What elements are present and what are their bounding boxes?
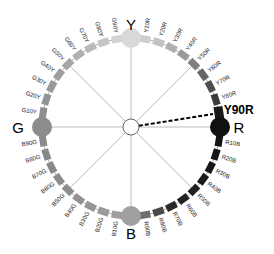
swatch-g20y	[41, 93, 51, 106]
swatch-label: Y90R	[224, 103, 254, 117]
swatch-label: G10Y	[21, 107, 37, 115]
swatch-label: B20G	[94, 216, 105, 233]
primary-label-y: Y	[126, 16, 136, 33]
swatch-chip	[97, 37, 110, 47]
swatch-chip	[211, 93, 221, 106]
primary-label-b: B	[126, 225, 136, 242]
swatch-label: B60G	[40, 180, 56, 194]
swatch-g70y	[84, 42, 97, 53]
primary-label-g: G	[12, 119, 24, 136]
swatch-label: G80Y	[94, 21, 104, 37]
swatch-label: G20Y	[25, 90, 41, 100]
swatch-label: B50G	[51, 192, 66, 207]
swatch-chip	[72, 193, 85, 205]
primary-circle-b	[121, 206, 141, 226]
swatch-label: G90Y	[111, 17, 119, 33]
swatch-g30y	[46, 80, 57, 93]
swatch-chip	[41, 93, 51, 106]
swatch-label: B70G	[31, 167, 48, 179]
spoke-line	[137, 133, 194, 190]
swatch-chip	[53, 68, 65, 81]
swatch-label: G50Y	[51, 47, 66, 62]
primary-label-r: R	[234, 119, 245, 136]
colour-wheel: Y10RY20RY30RY40RY50RY60RY70RY80RY90RR10B…	[0, 0, 274, 254]
swatch-r20b	[211, 148, 221, 161]
swatch-chip	[84, 42, 97, 53]
swatch-label: B80G	[25, 154, 42, 165]
swatch-label: B30G	[78, 210, 90, 227]
swatch-chip	[46, 161, 57, 174]
swatch-b80g	[41, 148, 51, 161]
swatch-b70g	[46, 161, 57, 174]
swatch-chip	[41, 148, 51, 161]
swatch-label: Y80R	[221, 90, 238, 101]
spoke-line	[68, 64, 125, 121]
swatch-label: G70Y	[78, 27, 90, 43]
swatch-label: R90B	[143, 221, 151, 237]
swatch-label: R10B	[225, 139, 241, 147]
swatch-b40g	[72, 193, 85, 205]
swatch-label: G60Y	[64, 36, 78, 52]
swatch-label: R20B	[221, 154, 237, 164]
swatch-r80b	[152, 207, 165, 217]
swatch-y80r	[211, 93, 221, 106]
swatch-label: Y30R	[172, 27, 184, 44]
swatch-b30g	[84, 201, 97, 212]
swatch-label: G40Y	[40, 60, 56, 74]
swatch-chip	[46, 80, 57, 93]
centre-circle	[123, 119, 139, 135]
swatch-g80y	[97, 37, 110, 47]
swatch-label: Y40R	[185, 35, 199, 51]
swatch-label: Y70R	[215, 74, 232, 86]
swatch-label: B90G	[21, 139, 37, 147]
swatch-b60g	[53, 173, 65, 186]
swatch-chip	[211, 148, 221, 161]
swatch-label: R60B	[185, 202, 199, 218]
swatch-label: Y60R	[206, 59, 222, 73]
swatch-label: Y10R	[143, 17, 151, 33]
swatch-label: Y20R	[158, 20, 169, 37]
swatch-b20g	[97, 207, 110, 217]
swatch-chip	[152, 37, 165, 47]
swatch-g40y	[53, 68, 65, 81]
swatch-label: R50B	[196, 192, 211, 207]
swatch-label: R30B	[215, 168, 231, 180]
swatch-y20r	[152, 37, 165, 47]
highlight-dashed-line	[139, 114, 213, 126]
swatch-chip	[53, 173, 65, 186]
swatch-label: G30Y	[31, 74, 47, 86]
spoke-line	[68, 133, 125, 190]
swatch-chip	[152, 207, 165, 217]
primary-circle-r	[210, 117, 230, 137]
swatch-label: B40G	[64, 202, 78, 218]
swatch-label: R70B	[172, 211, 184, 227]
swatch-chip	[84, 201, 97, 212]
swatch-label: B10G	[111, 220, 119, 236]
ncs-colour-circle-diagram: Y10RY20RY30RY40RY50RY60RY70RY80RY90RR10B…	[0, 0, 274, 254]
swatch-chip	[97, 207, 110, 217]
swatch-g60y	[72, 49, 85, 61]
spoke-line	[137, 64, 194, 121]
swatch-label: R40B	[206, 181, 222, 195]
swatch-label: R80B	[158, 217, 168, 233]
swatch-chip	[72, 49, 85, 61]
primary-circle-g	[32, 117, 52, 137]
swatch-label: Y50R	[196, 46, 211, 61]
